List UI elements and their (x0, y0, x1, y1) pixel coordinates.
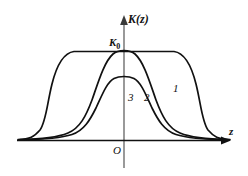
plateau-value-subscript: 0 (116, 42, 120, 51)
axes-group (17, 15, 231, 168)
plot-canvas (0, 0, 248, 176)
curve-2-label: 2 (144, 92, 150, 103)
plateau-value-label: K0 (109, 37, 120, 51)
y-axis-arrowhead (120, 15, 128, 25)
figure-container: K(z) K0 O z 1 2 3 (0, 0, 248, 176)
curve-3-label: 3 (128, 92, 134, 103)
y-axis-label: K(z) (128, 13, 149, 25)
curve-1-label: 1 (173, 83, 179, 94)
x-axis-label: z (229, 126, 233, 137)
origin-label: O (113, 145, 121, 156)
